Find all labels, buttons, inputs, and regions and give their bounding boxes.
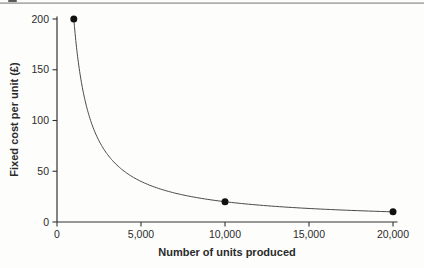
x-tick-label: 5,000 <box>128 228 154 240</box>
y-axis-title: Fixed cost per unit (£) <box>7 20 22 220</box>
y-axis-ticks: 050100150200 <box>31 13 57 228</box>
x-tick-label: 20,000 <box>377 228 409 240</box>
cost-curve <box>74 19 393 212</box>
data-points <box>70 16 396 216</box>
y-tick-label: 200 <box>31 13 49 25</box>
x-tick-label: 15,000 <box>293 228 325 240</box>
x-axis-title: Number of units produced <box>57 246 397 258</box>
fixed-cost-per-unit-chart: 05010015020005,00010,00015,00020,000 Fix… <box>0 0 424 268</box>
x-tick-label: 10,000 <box>209 228 241 240</box>
x-axis-ticks: 05,00010,00015,00020,000 <box>54 222 409 240</box>
data-point-marker <box>70 16 77 23</box>
plot-svg: 05010015020005,00010,00015,00020,000 <box>0 0 424 268</box>
figure-page: 05010015020005,00010,00015,00020,000 Fix… <box>0 0 424 268</box>
y-tick-label: 0 <box>43 216 49 228</box>
axes <box>57 17 398 223</box>
y-tick-label: 150 <box>31 63 49 75</box>
data-point-marker <box>390 208 397 215</box>
y-tick-label: 100 <box>31 114 49 126</box>
y-tick-label: 50 <box>37 165 49 177</box>
x-tick-label: 0 <box>54 228 60 240</box>
data-point-marker <box>222 198 229 205</box>
